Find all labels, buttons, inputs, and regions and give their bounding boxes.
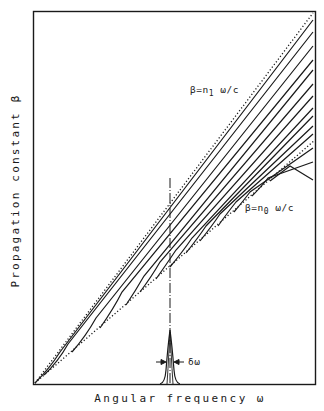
dispersion-diagram: Propagation constant β Angular frequency… <box>0 0 324 411</box>
linewidth-label: δω <box>188 356 200 367</box>
y-axis-label: Propagation constant β <box>4 60 26 320</box>
n1-line-label: β=n1 ω/c <box>190 84 239 98</box>
x-axis-label: Angular frequency ω <box>40 392 320 405</box>
n1-light-line <box>35 13 313 383</box>
n0-line-label: β=n0 ω/c <box>245 202 294 216</box>
